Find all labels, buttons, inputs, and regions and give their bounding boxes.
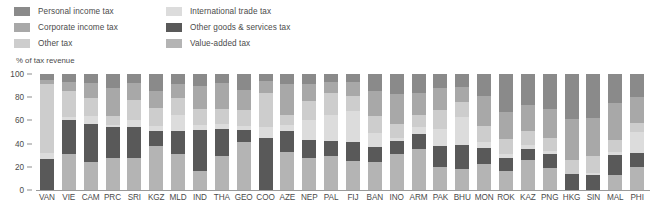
- bar-sin[interactable]: [586, 74, 600, 190]
- bar-phi[interactable]: [630, 74, 644, 190]
- bar-segment: [521, 160, 535, 190]
- bar-nep[interactable]: [302, 74, 316, 190]
- bar-segment: [84, 74, 98, 83]
- bar-segment: [215, 156, 229, 190]
- bar-segment: [608, 140, 622, 152]
- bar-prc[interactable]: [106, 74, 120, 190]
- x-axis-label-van: VAN: [36, 193, 58, 202]
- bar-segment: [280, 131, 294, 152]
- bar-ind[interactable]: [193, 74, 207, 190]
- bar-slot-ind: [189, 74, 211, 190]
- bar-sri[interactable]: [127, 74, 141, 190]
- legend-label-other_goods_services: Other goods & services tax: [190, 23, 290, 32]
- bar-segment: [40, 159, 54, 190]
- bar-segment: [630, 74, 644, 97]
- bar-segment: [324, 115, 338, 142]
- bar-segment: [368, 147, 382, 162]
- bar-segment: [543, 154, 557, 168]
- bar-pal[interactable]: [324, 74, 338, 190]
- bar-segment: [106, 158, 120, 190]
- bar-van[interactable]: [40, 74, 54, 190]
- bar-slot-bhu: [451, 74, 473, 190]
- bar-mld[interactable]: [171, 74, 185, 190]
- bar-aze[interactable]: [280, 74, 294, 190]
- legend-swatch-personal_income: [14, 7, 30, 16]
- bar-segment: [346, 82, 360, 96]
- y-tick-mark-40: [27, 143, 32, 144]
- legend-column-left: Personal income taxCorporate income taxO…: [14, 4, 118, 52]
- bar-segment: [368, 74, 382, 91]
- bar-kgz[interactable]: [149, 74, 163, 190]
- bar-tha[interactable]: [215, 74, 229, 190]
- bar-segment: [259, 138, 273, 190]
- bar-coo[interactable]: [259, 74, 273, 190]
- bar-segment: [280, 115, 294, 125]
- x-axis-label-fij: FIJ: [342, 193, 364, 202]
- legend-item-other_tax[interactable]: Other tax: [14, 36, 118, 50]
- bar-slot-nep: [298, 74, 320, 190]
- bar-rok[interactable]: [499, 74, 513, 190]
- bar-segment: [521, 74, 535, 105]
- bar-segment: [40, 84, 54, 152]
- x-axis-label-vie: VIE: [58, 193, 80, 202]
- bar-segment: [630, 97, 644, 123]
- bar-bhu[interactable]: [455, 74, 469, 190]
- bar-slot-pak: [429, 74, 451, 190]
- legend-item-value_added[interactable]: Value-added tax: [166, 36, 290, 50]
- bar-segment: [608, 155, 622, 175]
- bar-kaz[interactable]: [521, 74, 535, 190]
- bar-segment: [630, 167, 644, 190]
- bar-slot-aze: [276, 74, 298, 190]
- bar-segment: [412, 149, 426, 190]
- bar-segment: [171, 84, 185, 98]
- bar-fij[interactable]: [346, 74, 360, 190]
- x-axis-label-png: PNG: [539, 193, 561, 202]
- bar-segment: [499, 171, 513, 190]
- bar-slot-sri: [123, 74, 145, 190]
- bar-segment: [390, 141, 404, 154]
- bar-segment: [499, 74, 513, 112]
- bar-segment: [565, 174, 579, 190]
- legend-item-other_goods_services[interactable]: Other goods & services tax: [166, 20, 290, 34]
- bar-arm[interactable]: [412, 74, 426, 190]
- bar-segment: [127, 158, 141, 190]
- bar-pak[interactable]: [433, 74, 447, 190]
- bar-segment: [630, 153, 644, 167]
- bar-geo[interactable]: [237, 74, 251, 190]
- bar-segment: [455, 169, 469, 190]
- bar-segment: [127, 127, 141, 157]
- legend-label-international_trade: International trade tax: [190, 7, 271, 16]
- bar-segment: [477, 96, 491, 126]
- legend-item-personal_income[interactable]: Personal income tax: [14, 4, 118, 18]
- bar-mon[interactable]: [477, 74, 491, 190]
- bar-segment: [280, 84, 294, 114]
- bar-segment: [171, 115, 185, 131]
- legend-item-corporate_income[interactable]: Corporate income tax: [14, 20, 118, 34]
- bar-slot-hkg: [561, 74, 583, 190]
- bar-mal[interactable]: [608, 74, 622, 190]
- bar-segment: [324, 93, 338, 115]
- legend-item-international_trade[interactable]: International trade tax: [166, 4, 290, 18]
- bar-cam[interactable]: [84, 74, 98, 190]
- bar-segment: [499, 139, 513, 154]
- bar-segment: [477, 164, 491, 190]
- bar-png[interactable]: [543, 74, 557, 190]
- bar-segment: [608, 74, 622, 103]
- bar-hkg[interactable]: [565, 74, 579, 190]
- bar-slot-rok: [495, 74, 517, 190]
- x-axis-label-mon: MON: [473, 193, 495, 202]
- bar-segment: [171, 74, 185, 84]
- bar-ino[interactable]: [390, 74, 404, 190]
- x-axis-label-cam: CAM: [80, 193, 102, 202]
- bar-vie[interactable]: [62, 74, 76, 190]
- bar-segment: [106, 127, 120, 157]
- bar-segment: [215, 129, 229, 157]
- y-tick-label-100: 100: [10, 70, 24, 79]
- bar-segment: [433, 146, 447, 167]
- y-axis-title: % of tax revenue: [16, 56, 75, 65]
- x-axis-label-sin: SIN: [582, 193, 604, 202]
- bar-slot-cam: [80, 74, 102, 190]
- bar-segment: [106, 74, 120, 88]
- bar-segment: [84, 162, 98, 190]
- bar-ban[interactable]: [368, 74, 382, 190]
